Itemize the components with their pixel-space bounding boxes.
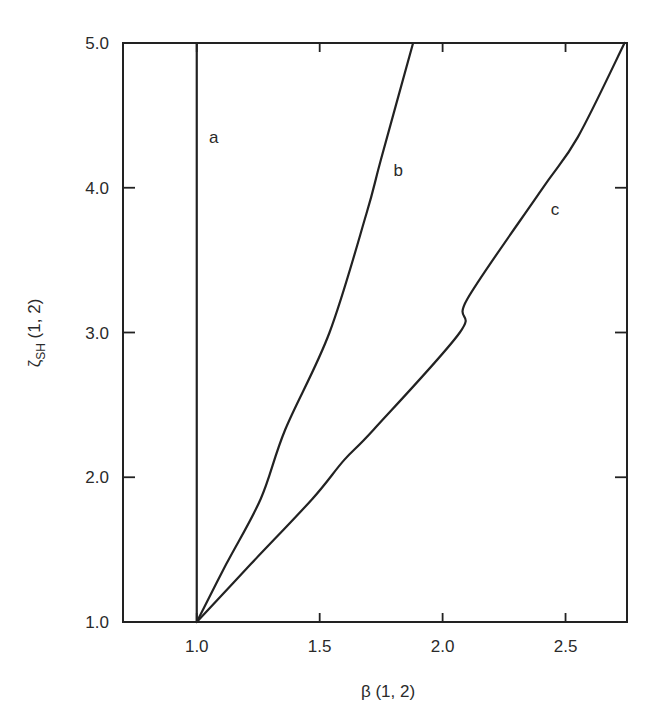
x-tick-label: 2.5 [554,637,578,656]
curve-b [197,43,413,622]
x-tick-label: 1.5 [308,637,332,656]
x-tick-label: 1.0 [185,637,209,656]
curve-label-a: a [209,128,219,147]
y-tick-label: 5.0 [85,34,109,53]
curve-labels: abc [209,128,560,219]
y-axis-title-subscript: SH [34,343,48,360]
x-tick-label: 2.0 [431,637,455,656]
curve-label-c: c [551,200,560,219]
curve-label-b: b [393,161,402,180]
svg-text:ζSH (1, 2): ζSH (1, 2) [25,299,48,368]
axis-ticks [123,43,627,622]
y-tick-label: 3.0 [85,324,109,343]
y-tick-label: 2.0 [85,468,109,487]
curve-c [197,43,625,622]
y-axis-title-suffix: (1, 2) [25,299,44,343]
y-tick-label: 1.0 [85,613,109,632]
y-tick-label: 4.0 [85,179,109,198]
y-axis-title: ζSH (1, 2) [25,299,48,368]
axis-tick-labels: 1.01.52.02.51.02.03.04.05.0 [85,34,577,656]
x-axis-title: β (1, 2) [361,682,415,701]
chart-canvas: 1.01.52.02.51.02.03.04.05.0 abc β (1, 2)… [0,0,659,727]
plot-frame [123,43,627,622]
data-curves [197,43,625,622]
